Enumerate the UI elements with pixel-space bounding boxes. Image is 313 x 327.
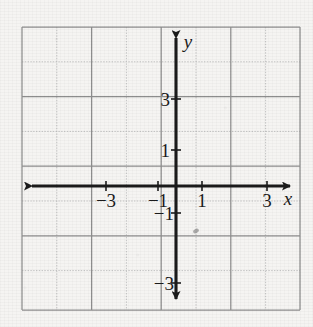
tick-marks [106, 99, 267, 283]
x-tick-label: 3 [262, 190, 272, 211]
coordinate-grid-figure: −3 −1 1 3 3 1 −1 −3 y x [0, 0, 313, 327]
y-tick-label: 3 [161, 89, 171, 110]
y-axis-label: y [182, 31, 193, 52]
y-tick-label: −1 [154, 203, 174, 224]
x-axis-label: x [283, 188, 293, 209]
x-tick-labels: −3 −1 1 3 [96, 190, 272, 211]
grid-canvas: −3 −1 1 3 3 1 −1 −3 y x [0, 0, 313, 327]
x-tick-label: 1 [197, 190, 207, 211]
y-tick-label: −3 [154, 273, 174, 294]
x-tick-label: −3 [96, 190, 116, 211]
major-gridlines [22, 27, 300, 310]
y-tick-label: 1 [161, 140, 171, 161]
